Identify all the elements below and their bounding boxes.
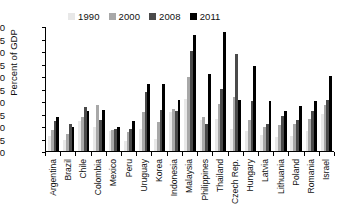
y-tick-label: 50 xyxy=(0,22,5,33)
x-tick-mark xyxy=(60,152,61,156)
x-tick-label: Malaysia xyxy=(185,159,194,193)
plot-area xyxy=(45,27,334,152)
x-tick-label: Czech Rep. xyxy=(231,159,240,204)
bar-2011 xyxy=(223,32,226,151)
bar-2011 xyxy=(329,76,332,151)
x-label-cell: Lithuania xyxy=(273,157,288,223)
bar-group xyxy=(152,27,167,151)
x-tick-mark xyxy=(288,152,289,156)
bar-2011 xyxy=(72,127,75,151)
bar-2011 xyxy=(238,100,241,151)
x-label-cell: Philippines xyxy=(197,157,212,223)
y-axis-title: Percent of GDP xyxy=(8,23,19,103)
x-label-cell: Peru xyxy=(121,157,136,223)
bar-group xyxy=(61,27,76,151)
x-label-cell: Romania xyxy=(303,157,318,223)
x-tick-mark xyxy=(273,152,274,156)
x-tick-mark xyxy=(151,152,152,156)
legend-label: 1990 xyxy=(78,12,100,22)
x-label-cell: Chile xyxy=(75,157,90,223)
x-label-cell: Latvia xyxy=(258,157,273,223)
x-tick-label: Romania xyxy=(307,159,316,193)
bar-group xyxy=(91,27,106,151)
x-label-cell: Indonesia xyxy=(167,157,182,223)
bar-2011 xyxy=(102,110,105,151)
bar-group xyxy=(228,27,243,151)
bar-group xyxy=(243,27,258,151)
x-label-cell: Uruguay xyxy=(136,157,151,223)
x-tick-label: Colombia xyxy=(94,159,103,195)
bar-2011 xyxy=(314,101,317,151)
y-tick-label: 10 xyxy=(0,122,5,133)
y-tick-label: 20 xyxy=(0,97,5,108)
bar-group xyxy=(198,27,213,151)
legend-swatch-icon xyxy=(149,13,156,20)
x-label-cell: Malaysia xyxy=(182,157,197,223)
x-tick-label: Latvia xyxy=(261,159,270,182)
bar-group xyxy=(273,27,288,151)
legend-label: 2000 xyxy=(119,12,141,22)
bar-2011 xyxy=(147,84,150,152)
legend-swatch-icon xyxy=(190,13,197,20)
x-tick-label: Thailand xyxy=(216,159,225,192)
bar-2011 xyxy=(56,117,59,151)
legend-entry-2000: 2000 xyxy=(109,12,141,22)
x-tick-label: Chile xyxy=(79,159,88,179)
bar-2011 xyxy=(178,100,181,151)
x-tick-label: Uruguay xyxy=(140,159,149,191)
legend-swatch-icon xyxy=(68,13,75,20)
x-axis-labels: ArgentinaBrazilChileColombiaMexicoPeruUr… xyxy=(45,157,334,223)
x-label-cell: Mexico xyxy=(106,157,121,223)
bar-group xyxy=(213,27,228,151)
x-label-cell: Colombia xyxy=(91,157,106,223)
x-tick-mark xyxy=(91,152,92,156)
bar-group xyxy=(182,27,197,151)
chart-legend: 1990200020082011 xyxy=(68,11,220,22)
bar-chart: 1990200020082011 Percent of GDP 05101520… xyxy=(0,0,341,223)
x-tick-label: Indonesia xyxy=(170,159,179,196)
x-tick-mark xyxy=(243,152,244,156)
bar-group xyxy=(304,27,319,151)
bar-group xyxy=(258,27,273,151)
y-tick-label: 35 xyxy=(0,59,5,70)
x-tick-mark xyxy=(319,152,320,156)
x-tick-label: Brazil xyxy=(64,159,73,181)
y-tick-label: 15 xyxy=(0,109,5,120)
legend-entry-1990: 1990 xyxy=(68,12,100,22)
x-tick-label: Israel xyxy=(322,159,331,180)
y-tick-label: 30 xyxy=(0,72,5,83)
x-tick-mark xyxy=(212,152,213,156)
legend-label: 2008 xyxy=(159,12,181,22)
x-tick-mark xyxy=(167,152,168,156)
x-tick-mark xyxy=(334,152,335,156)
bar-2011 xyxy=(299,106,302,151)
y-tick-label: 0 xyxy=(0,147,5,158)
legend-swatch-icon xyxy=(109,13,116,20)
x-tick-mark xyxy=(228,152,229,156)
x-tick-label: Argentina xyxy=(48,159,57,196)
bar-2011 xyxy=(193,35,196,151)
x-tick-label: Lithuania xyxy=(276,159,285,194)
y-tick-label: 40 xyxy=(0,47,5,58)
bar-groups xyxy=(46,27,334,151)
y-tick-label: 25 xyxy=(0,84,5,95)
x-tick-label: Philippines xyxy=(200,159,209,201)
legend-entry-2011: 2011 xyxy=(190,12,221,22)
bar-group xyxy=(319,27,334,151)
x-tick-mark xyxy=(258,152,259,156)
x-label-cell: Brazil xyxy=(60,157,75,223)
y-tick-label: 45 xyxy=(0,34,5,45)
bar-2011 xyxy=(269,101,272,151)
x-label-cell: Argentina xyxy=(45,157,60,223)
x-tick-mark xyxy=(197,152,198,156)
bar-2011 xyxy=(253,66,256,151)
x-tick-label: Korea xyxy=(155,159,164,182)
bar-group xyxy=(107,27,122,151)
x-tick-mark xyxy=(45,152,46,156)
bar-group xyxy=(137,27,152,151)
bar-2011 xyxy=(117,127,120,151)
bar-2011 xyxy=(284,111,287,151)
bar-2011 xyxy=(208,74,211,152)
x-tick-mark xyxy=(304,152,305,156)
x-axis-ticks xyxy=(45,152,334,156)
